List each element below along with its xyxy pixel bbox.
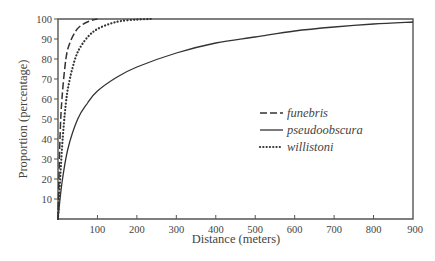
legend: funebrispseudoobscurawillistoni: [260, 106, 363, 154]
plot-frame: [58, 19, 413, 219]
y-tick-label: 30: [42, 154, 53, 165]
x-tick-label: 700: [326, 224, 342, 235]
series-line-pseudoobscura: [58, 22, 413, 219]
y-tick-label: 20: [42, 174, 53, 185]
x-axis-label: Distance (meters): [192, 232, 281, 246]
y-tick-label: 80: [42, 54, 53, 65]
x-tick-label: 800: [366, 224, 382, 235]
y-tick-label: 70: [42, 74, 53, 85]
y-tick-label: 10: [42, 194, 53, 205]
axes-frame: [58, 19, 413, 219]
x-tick-label: 100: [90, 224, 106, 235]
legend-label-funebris: funebris: [287, 106, 328, 120]
legend-label-willistoni: willistoni: [287, 140, 334, 154]
legend-label-pseudoobscura: pseudoobscura: [286, 123, 363, 137]
line-chart: 102030405060708090100 100200300400500600…: [0, 0, 435, 261]
y-axis-label: Proportion (percentage): [16, 59, 30, 178]
series-line-willistoni: [58, 19, 151, 219]
y-tick-label: 90: [42, 34, 53, 45]
data-series: [58, 19, 413, 219]
y-tick-label: 60: [42, 94, 53, 105]
y-tick-label: 50: [42, 114, 53, 125]
x-tick-label: 900: [407, 224, 423, 235]
y-tick-label: 100: [36, 14, 52, 25]
x-tick-label: 600: [287, 224, 303, 235]
y-tick-label: 40: [42, 134, 53, 145]
x-tick-label: 200: [129, 224, 145, 235]
y-axis-ticks: 102030405060708090100: [36, 14, 58, 205]
x-tick-label: 300: [168, 224, 184, 235]
